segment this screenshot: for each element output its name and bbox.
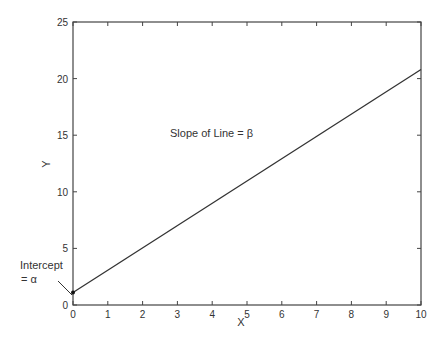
slope-annotation: Slope of Line = β bbox=[170, 127, 253, 139]
y-tick-label: 0 bbox=[62, 300, 68, 311]
chart: 0123456789100510152025 Slope of Line = β… bbox=[0, 0, 442, 338]
x-axis-label: X bbox=[237, 316, 245, 328]
y-axis-label: Y bbox=[40, 160, 52, 168]
intercept-arrow bbox=[58, 281, 72, 295]
x-tick-label: 6 bbox=[279, 309, 285, 320]
x-tick-label: 5 bbox=[244, 309, 250, 320]
y-tick-label: 25 bbox=[57, 17, 69, 28]
x-tick-label: 2 bbox=[140, 309, 146, 320]
x-tick-label: 9 bbox=[383, 309, 389, 320]
x-tick-label: 3 bbox=[175, 309, 181, 320]
x-tick-label: 10 bbox=[415, 309, 427, 320]
x-tick-label: 8 bbox=[349, 309, 355, 320]
x-tick-label: 1 bbox=[105, 309, 111, 320]
y-tick-label: 10 bbox=[57, 187, 69, 198]
x-tick-label: 0 bbox=[70, 309, 76, 320]
y-tick-label: 5 bbox=[62, 243, 68, 254]
plot-frame bbox=[73, 22, 421, 305]
y-tick-label: 15 bbox=[57, 130, 69, 141]
intercept-label: Intercept bbox=[20, 259, 63, 271]
intercept-alpha-label: = α bbox=[21, 273, 37, 285]
axis-ticks bbox=[73, 22, 421, 305]
y-tick-label: 20 bbox=[57, 74, 69, 85]
tick-labels: 0123456789100510152025 bbox=[57, 17, 427, 320]
data-line bbox=[73, 70, 421, 293]
x-tick-label: 7 bbox=[314, 309, 320, 320]
x-tick-label: 4 bbox=[209, 309, 215, 320]
